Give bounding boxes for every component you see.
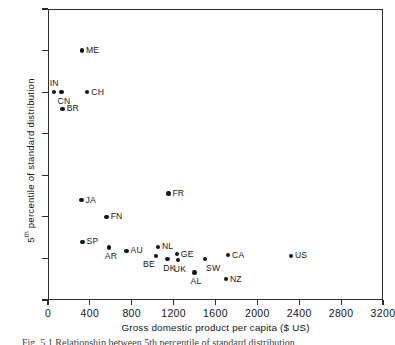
data-point-label: US [295, 250, 307, 260]
data-point-label: FN [111, 211, 123, 221]
x-axis-tick-mark [47, 300, 48, 305]
x-axis-tick-mark [215, 300, 216, 305]
data-point-marker [166, 191, 170, 195]
data-point-label: CH [91, 87, 104, 97]
data-point-label: ME [86, 45, 99, 55]
data-point-marker [226, 253, 230, 257]
data-point-label: CA [232, 250, 244, 260]
data-point-marker [289, 254, 293, 258]
data-point-marker [192, 270, 196, 274]
data-points-layer: INCNBRMECHJAFNFRSPARAUNLBEDKGEUKALSWNZCA… [48, 9, 383, 300]
x-axis-tick-label: 1200 [161, 307, 186, 319]
y-axis-title: 5th percentile of standard distribution [25, 46, 36, 276]
data-point-label: AU [131, 245, 143, 255]
data-point-marker [176, 258, 180, 262]
x-axis-title: Gross domestic product per capita ($ US) [48, 322, 383, 333]
data-point-label: IN [50, 78, 59, 88]
x-axis-tick-mark [131, 300, 132, 305]
data-point-label: UK [174, 264, 186, 274]
data-point-label: BR [67, 103, 79, 113]
data-point-marker [175, 252, 179, 256]
data-point-label: BE [143, 259, 155, 269]
data-point-label: NZ [230, 274, 242, 284]
x-axis-tick-label: 400 [81, 307, 100, 319]
x-axis-tick-label: 3200 [371, 307, 395, 319]
x-axis-tick-mark [341, 300, 342, 305]
data-point-marker [224, 277, 228, 281]
data-point-marker [154, 254, 158, 258]
data-point-label: AL [191, 276, 202, 286]
data-point-label: GE [181, 249, 194, 259]
data-point-marker [156, 245, 160, 249]
data-point-label: FR [172, 188, 184, 198]
data-point-marker [59, 90, 63, 94]
data-point-label: JA [86, 195, 96, 205]
data-point-marker [85, 90, 89, 94]
data-point-marker [104, 215, 108, 219]
data-point-marker [79, 198, 83, 202]
data-point-marker [203, 257, 207, 261]
x-axis-tick-label: 2800 [329, 307, 354, 319]
data-point-marker [80, 48, 84, 52]
x-axis-tick-label: 2000 [245, 307, 270, 319]
figure-caption: Fig. 5.1 Relationship between 5th percen… [22, 337, 295, 345]
data-point-label: SW [206, 263, 220, 273]
x-axis-tick-label: 1600 [203, 307, 228, 319]
data-point-marker [60, 107, 64, 111]
data-point-marker [80, 240, 84, 244]
data-point-label: SP [87, 236, 99, 246]
x-axis-tick-label: 0 [45, 307, 51, 319]
data-point-marker [107, 245, 111, 249]
x-axis-tick-mark [89, 300, 90, 305]
data-point-marker [165, 257, 169, 261]
x-axis-tick-mark [299, 300, 300, 305]
data-point-label: NL [162, 241, 173, 251]
x-axis-tick-label: 800 [122, 307, 141, 319]
x-axis-tick-mark [382, 300, 383, 305]
x-axis-tick-mark [173, 300, 174, 305]
data-point-marker [52, 90, 56, 94]
data-point-marker [124, 249, 128, 253]
y-axis-title-superscript: th [23, 231, 30, 237]
x-axis-tick-mark [257, 300, 258, 305]
data-point-label: AR [105, 251, 117, 261]
x-axis-tick-label: 2400 [287, 307, 312, 319]
